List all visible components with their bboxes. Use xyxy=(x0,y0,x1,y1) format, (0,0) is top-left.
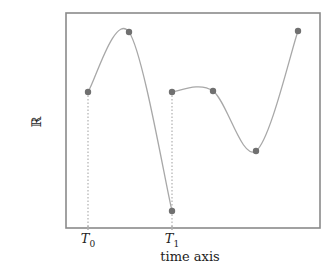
data-point xyxy=(295,28,301,34)
plot-frame xyxy=(66,13,320,228)
x-axis-label: time axis xyxy=(160,249,219,264)
data-point xyxy=(126,29,132,35)
data-point xyxy=(253,148,259,154)
data-point xyxy=(169,208,175,214)
tick-label-t0-main: T xyxy=(81,231,90,246)
dotted-guides xyxy=(88,92,172,228)
tick-label-t1-sub: 1 xyxy=(173,239,179,249)
tick-label-t0-sub: 0 xyxy=(89,239,95,249)
curve-segment-2 xyxy=(172,31,298,152)
curves xyxy=(88,28,298,211)
data-points xyxy=(85,28,301,214)
tick-label-t1-main: T xyxy=(165,231,174,246)
curve-segment-1 xyxy=(88,28,172,211)
data-point xyxy=(85,89,91,95)
tick-label-t0: T0 xyxy=(81,231,95,249)
y-axis-label: ℝ xyxy=(29,117,44,128)
data-point xyxy=(210,88,216,94)
data-point xyxy=(169,89,175,95)
tick-label-t1: T1 xyxy=(165,231,179,249)
